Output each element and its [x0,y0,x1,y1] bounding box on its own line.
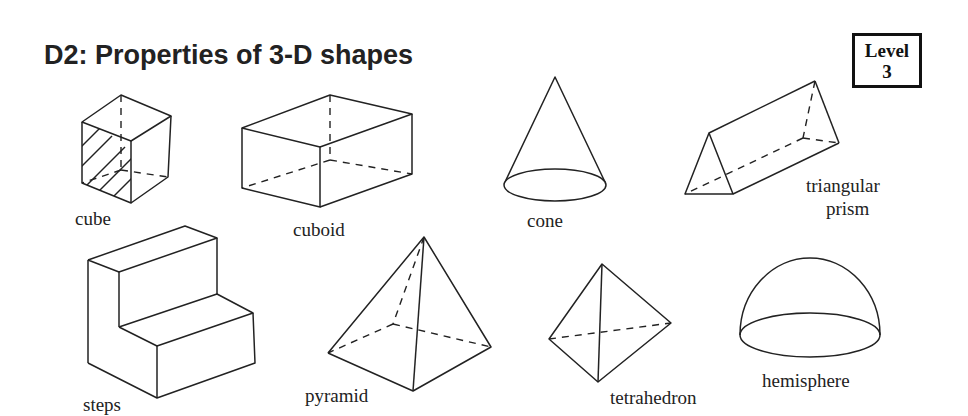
tetrahedron-drawing [549,264,671,382]
pyramid-drawing [328,237,491,391]
hemisphere-drawing [740,258,880,357]
steps-drawing [88,226,255,398]
cube-drawing [78,95,171,203]
cuboid-label: cuboid [293,219,345,241]
pyramid-label: pyramid [305,385,368,407]
cube-label: cube [75,208,111,230]
steps-label: steps [83,394,121,416]
cuboid-drawing [242,95,412,207]
triangular-prism-label-line2: prism [826,198,869,220]
triangular-prism-label-line1: triangular [806,175,880,197]
cone-drawing [504,77,606,201]
cone-label: cone [527,210,563,232]
shapes-illustration [0,0,968,416]
hemisphere-label: hemisphere [762,370,850,392]
tetrahedron-label: tetrahedron [610,387,697,409]
